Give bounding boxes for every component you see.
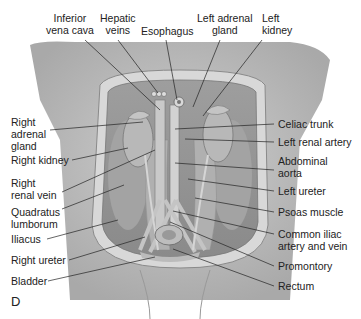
label-line: lumborum — [11, 218, 60, 230]
label-line: kidney — [262, 24, 292, 36]
label-line: Left renal artery — [278, 136, 352, 148]
label-line: Inferior — [46, 12, 94, 24]
label-line: gland — [197, 24, 252, 36]
label-line: Esophagus — [141, 25, 194, 37]
right-kidney — [123, 113, 153, 167]
label-right-adrenal-gland: Right adrenal gland — [11, 116, 46, 152]
label-line: Right — [11, 177, 57, 189]
label-line: Celiac trunk — [278, 118, 333, 130]
label-line: Psoas muscle — [278, 206, 343, 218]
label-iliacus: Iliacus — [11, 233, 41, 245]
label-line: Common iliac — [278, 228, 347, 240]
label-line: Left adrenal — [197, 12, 252, 24]
label-line: Iliacus — [11, 233, 41, 245]
label-line: Quadratus — [11, 206, 60, 218]
label-line: Promontory — [278, 260, 332, 272]
label-line: Left — [262, 12, 292, 24]
label-right-renal-vein: Right renal vein — [11, 177, 57, 201]
left-kidney — [203, 108, 233, 162]
label-line: Abdominal — [278, 155, 328, 167]
label-right-ureter: Right ureter — [11, 254, 66, 266]
label-line: veins — [100, 24, 136, 36]
label-line: Right ureter — [11, 254, 66, 266]
label-right-kidney: Right kidney — [11, 154, 69, 166]
label-left-ureter: Left ureter — [278, 185, 326, 197]
label-left-adrenal-gland: Left adrenal gland — [197, 12, 252, 36]
label-bladder: Bladder — [11, 275, 47, 287]
label-line: aorta — [278, 167, 328, 179]
label-line: Rectum — [278, 280, 314, 292]
label-esophagus: Esophagus — [141, 25, 194, 37]
label-line: gland — [11, 140, 46, 152]
label-line: Hepatic — [100, 12, 136, 24]
label-line: Right — [11, 116, 46, 128]
label-abdominal-aorta: Abdominal aorta — [278, 155, 328, 179]
label-rectum: Rectum — [278, 280, 314, 292]
label-line: vena cava — [46, 24, 94, 36]
label-line: renal vein — [11, 189, 57, 201]
label-line: Left ureter — [278, 185, 326, 197]
label-line: adrenal — [11, 128, 46, 140]
label-common-iliac: Common iliac artery and vein — [278, 228, 347, 252]
label-line: Right kidney — [11, 154, 69, 166]
label-left-renal-artery: Left renal artery — [278, 136, 352, 148]
label-left-kidney: Left kidney — [262, 12, 292, 36]
label-psoas-muscle: Psoas muscle — [278, 206, 343, 218]
label-line: Bladder — [11, 275, 47, 287]
label-quadratus-lumborum: Quadratus lumborum — [11, 206, 60, 230]
label-celiac-trunk: Celiac trunk — [278, 118, 333, 130]
label-inferior-vena-cava: Inferior vena cava — [46, 12, 94, 36]
label-promontory: Promontory — [278, 260, 332, 272]
label-line: artery and vein — [278, 240, 347, 252]
panel-letter: D — [11, 294, 20, 309]
label-hepatic-veins: Hepatic veins — [100, 12, 136, 36]
